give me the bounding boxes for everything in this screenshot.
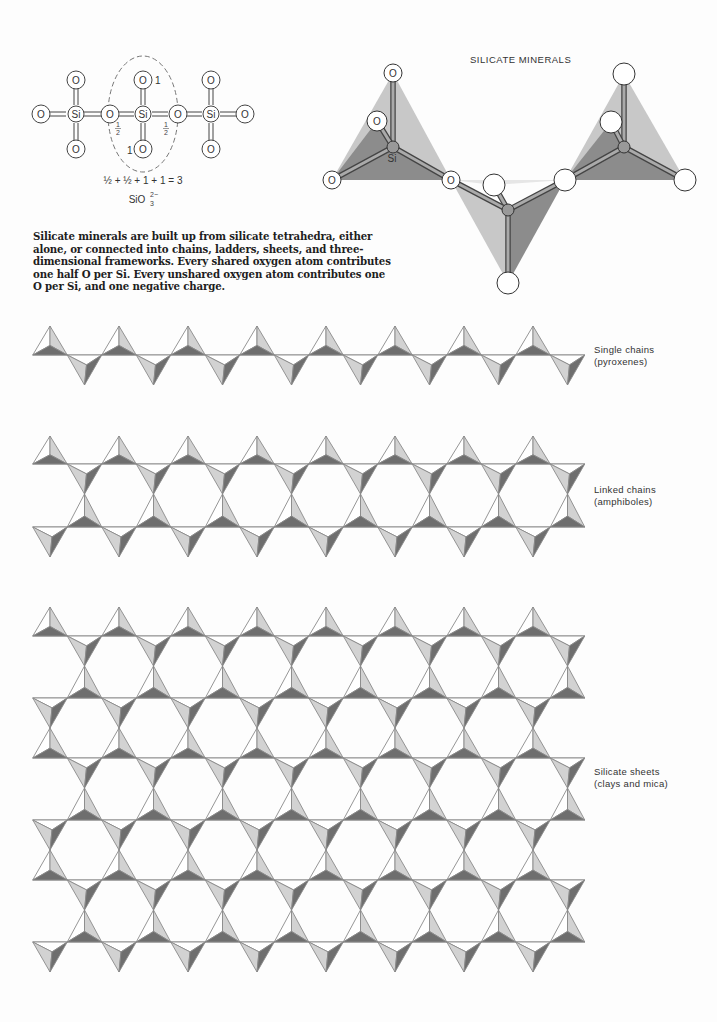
oxygen-atom-label: O [207, 144, 215, 155]
tetrahedron-down [343, 636, 378, 666]
atom [618, 141, 630, 153]
tetrahedron-down [481, 758, 516, 788]
tetrahedron-up [378, 436, 413, 464]
tetrahedron-down [412, 880, 447, 910]
tetrahedron-up [343, 666, 378, 698]
tetrahedron-up [33, 850, 68, 880]
svg-text:1: 1 [116, 121, 120, 128]
tetrahedron-up [447, 850, 482, 880]
tetrahedron-up [274, 666, 309, 698]
oxygen-atom-label: O [174, 109, 182, 120]
tetrahedron-down [33, 698, 68, 728]
tetrahedron-down [136, 758, 171, 788]
svg-text:2−: 2− [150, 191, 158, 198]
oxygen-atom-label: O [37, 109, 45, 120]
tetrahedron-up [102, 326, 137, 355]
tetrahedron-up [412, 910, 447, 942]
tetrahedron-down [309, 698, 344, 728]
tetrahedron-down [447, 820, 482, 850]
tetrahedron-down [240, 942, 275, 972]
tetrahedron-down [240, 820, 275, 850]
tetrahedron-down [516, 698, 551, 728]
tetrahedron-down [33, 942, 68, 972]
tetrahedron-up [343, 910, 378, 942]
atom [502, 204, 514, 216]
tetrahedron-up [447, 607, 482, 636]
formula: SiO [129, 194, 146, 205]
tetrahedron-up [516, 607, 551, 636]
tetrahedron-down [481, 880, 516, 910]
tetrahedron-down [550, 636, 585, 666]
tetrahedron-down [67, 880, 102, 910]
tetrahedron-down [205, 464, 240, 494]
tetrahedron-up [67, 494, 102, 527]
tetrahedron-down [274, 880, 309, 910]
svg-text:2: 2 [164, 129, 168, 136]
tetrahedron-down [309, 820, 344, 850]
tetrahedron-down [343, 880, 378, 910]
tetrahedron-up [240, 326, 275, 355]
tetrahedron-down [378, 527, 413, 557]
tetrahedron-down [205, 758, 240, 788]
tetrahedron-up [309, 326, 344, 355]
tetrahedron-down [274, 758, 309, 788]
tetrahedron-down [136, 880, 171, 910]
tetrahedron-down [102, 527, 137, 557]
tetrahedron-up [171, 607, 206, 636]
tetrahedron-down [447, 698, 482, 728]
oxygen-atom-label: O [72, 144, 80, 155]
tetrahedron-up [481, 494, 516, 527]
tetrahedron-up [102, 728, 137, 758]
tetrahedron-up [309, 436, 344, 464]
tetrahedron-down [274, 355, 309, 385]
tetrahedron-down [102, 698, 137, 728]
tetrahedron-up [516, 326, 551, 355]
tetrahedron-up [67, 666, 102, 698]
oxygen-atom-label: O [207, 75, 215, 86]
silicon-label: Si [388, 153, 397, 164]
tetrahedron-up [205, 788, 240, 820]
tetrahedron-up [102, 607, 137, 636]
tetrahedron-down [481, 464, 516, 494]
tetrahedron-down [378, 820, 413, 850]
tetrahedron-up [240, 436, 275, 464]
label-line: Silicate sheets [594, 766, 668, 778]
tetrahedron-down [33, 527, 68, 557]
tetrahedron-down [240, 527, 275, 557]
sio3-structure-diagram: OOOOOOOOOOSiSiSi111212½ + ½ + 1 + 1 = 3S… [0, 0, 717, 1022]
tetrahedron-up [274, 910, 309, 942]
label-silicate-sheets: Silicate sheets (clays and mica) [594, 766, 668, 790]
tetrahedron-up [378, 326, 413, 355]
tetrahedron-down [378, 698, 413, 728]
tetrahedron-up [550, 494, 585, 527]
svg-text:1: 1 [155, 75, 161, 86]
tetrahedron-up [516, 436, 551, 464]
label-line: (clays and mica) [594, 778, 668, 790]
tetrahedron-down [481, 636, 516, 666]
tetrahedron-up [33, 607, 68, 636]
oxygen-atom-label: O [241, 109, 249, 120]
oxygen-atom-label: O [106, 109, 114, 120]
tetrahedron-up [102, 436, 137, 464]
tetrahedron-down [274, 464, 309, 494]
atom [554, 169, 576, 191]
tetrahedron-down [205, 636, 240, 666]
tetrahedron-up [33, 436, 68, 464]
tetrahedron-down [240, 698, 275, 728]
tetrahedron-down [447, 527, 482, 557]
tetrahedron-up [447, 326, 482, 355]
tetrahedron-up [171, 850, 206, 880]
tetrahedron-down [67, 464, 102, 494]
tetrahedron-up [378, 728, 413, 758]
tetrahedron-up [412, 788, 447, 820]
svg-text:O: O [328, 175, 336, 186]
tetrahedron-up [171, 436, 206, 464]
tetrahedron-up [481, 788, 516, 820]
silicate-chain-structures [33, 326, 585, 972]
tetrahedron-up [378, 850, 413, 880]
tetrahedron-down [171, 820, 206, 850]
tetrahedron-down [171, 942, 206, 972]
tetrahedron-down [205, 355, 240, 385]
tetrahedron-down [343, 464, 378, 494]
atom [674, 169, 696, 191]
